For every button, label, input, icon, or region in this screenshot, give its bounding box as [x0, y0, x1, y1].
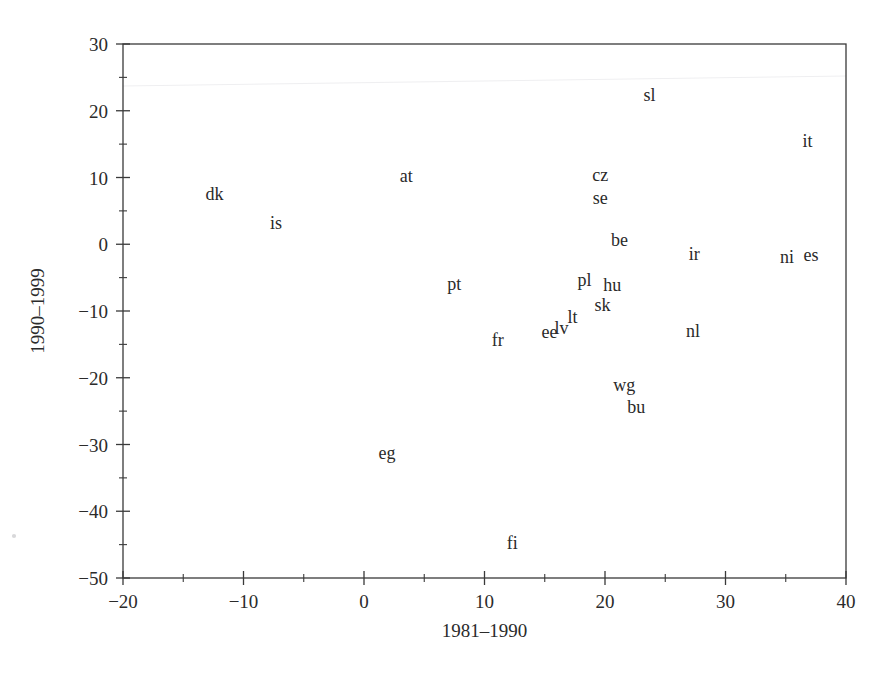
data-point-ir: ir	[689, 244, 700, 264]
y-tick-label: −40	[78, 501, 108, 522]
data-point-pt: pt	[447, 274, 461, 294]
y-tick-label: 0	[99, 234, 109, 255]
data-point-cz: cz	[592, 165, 608, 185]
data-point-it: it	[802, 131, 812, 151]
data-point-dk: dk	[206, 184, 224, 204]
data-point-fi: fi	[507, 533, 518, 553]
data-point-es: es	[804, 245, 819, 265]
data-point-sl: sl	[644, 85, 656, 105]
data-point-nl: nl	[686, 321, 700, 341]
x-tick-label: 20	[596, 591, 615, 612]
scatter-plot-figure: −20−10010203040 −50−40−30−20−100102030 d…	[0, 0, 896, 674]
data-point-at: at	[400, 166, 413, 186]
y-tick-label: −10	[78, 301, 108, 322]
x-tick-label: 10	[475, 591, 494, 612]
data-point-lt: lt	[567, 307, 577, 327]
data-point-pl: pl	[578, 270, 592, 290]
data-point-be: be	[611, 230, 628, 250]
data-point-ni: ni	[780, 247, 794, 267]
y-tick-label: 30	[89, 34, 108, 55]
data-point-sk: sk	[595, 295, 611, 315]
y-tick-label: 10	[89, 168, 108, 189]
data-point-eg: eg	[378, 443, 395, 463]
figure-background	[0, 0, 896, 674]
x-tick-label: 40	[837, 591, 856, 612]
plot-canvas: −20−10010203040 −50−40−30−20−100102030 d…	[0, 0, 896, 674]
scan-speck	[12, 534, 16, 538]
data-point-is: is	[270, 213, 282, 233]
y-tick-label: −20	[78, 368, 108, 389]
x-tick-label: 30	[716, 591, 735, 612]
x-tick-label: 0	[359, 591, 369, 612]
y-tick-label: −30	[78, 435, 108, 456]
data-point-hu: hu	[603, 275, 621, 295]
y-tick-label: −50	[78, 568, 108, 589]
y-tick-label: 20	[89, 101, 108, 122]
y-axis-title: 1990–1999	[27, 268, 48, 354]
x-tick-label: −20	[108, 591, 138, 612]
data-point-fr: fr	[492, 330, 504, 350]
data-point-se: se	[593, 188, 608, 208]
x-axis-title: 1981–1990	[442, 620, 528, 641]
x-tick-label: −10	[229, 591, 259, 612]
data-point-wg: wg	[613, 375, 635, 395]
data-point-bu: bu	[627, 397, 645, 417]
